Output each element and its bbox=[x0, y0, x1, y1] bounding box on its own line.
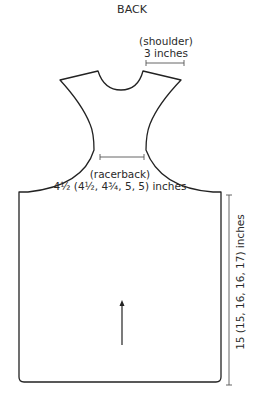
schematic-canvas: BACK (shoulder) 3 inches (racerback) 4½ … bbox=[0, 0, 264, 412]
up-arrow-icon bbox=[120, 300, 125, 345]
length-dimension-line bbox=[226, 195, 232, 385]
length-value: 15 (15, 16, 16, 17) inches bbox=[234, 182, 246, 382]
length-label: 15 (15, 16, 16, 17) inches bbox=[234, 82, 246, 282]
garment-outline bbox=[19, 71, 221, 382]
shoulder-dimension-line bbox=[146, 60, 184, 66]
back-schematic-drawing bbox=[0, 0, 264, 412]
racerback-dimension-line bbox=[100, 154, 144, 160]
